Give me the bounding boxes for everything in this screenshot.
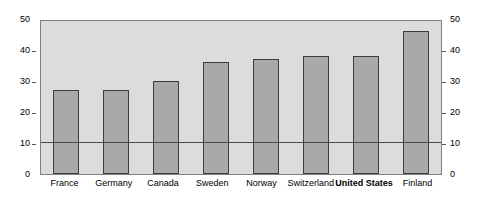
- plot-inner: [41, 21, 441, 174]
- axis-tick-label-left-10: 10: [20, 139, 30, 148]
- bar-finland[interactable]: [403, 31, 429, 174]
- axis-tick-label-left-50: 50: [20, 15, 30, 24]
- bar-slot-canada: [141, 21, 191, 174]
- category-label-germany: Germany: [89, 179, 138, 189]
- axis-tick-label-left-20: 20: [20, 108, 30, 117]
- bar-slot-germany: [91, 21, 141, 174]
- axis-tick-mark-right-20: [442, 113, 446, 114]
- axis-tick-label-right-10: 10: [450, 139, 460, 148]
- y-axis-left: 01020304050: [6, 20, 36, 175]
- axis-tick-mark-right-10: [442, 144, 446, 145]
- x-axis-category-labels: FranceGermanyCanadaSwedenNorwaySwitzerla…: [40, 179, 442, 199]
- bars-layer: [41, 21, 441, 174]
- axis-tick-label-right-40: 40: [450, 46, 460, 55]
- bar-united-states[interactable]: [353, 56, 379, 174]
- bar-canada[interactable]: [153, 81, 179, 174]
- category-label-switzerland: Switzerland: [286, 179, 335, 189]
- bar-switzerland[interactable]: [303, 56, 329, 174]
- reference-line-10: [41, 142, 441, 143]
- axis-tick-label-right-0: 0: [450, 170, 455, 179]
- bar-slot-france: [41, 21, 91, 174]
- bar-norway[interactable]: [253, 59, 279, 174]
- category-label-united-states: United States: [335, 179, 393, 189]
- axis-tick-mark-left-20: [32, 113, 36, 114]
- category-label-sweden: Sweden: [188, 179, 237, 189]
- axis-tick-mark-left-30: [32, 82, 36, 83]
- category-label-finland: Finland: [393, 179, 442, 189]
- plot-area: [40, 20, 442, 175]
- axis-tick-label-left-30: 30: [20, 77, 30, 86]
- axis-tick-mark-left-10: [32, 144, 36, 145]
- bar-slot-sweden: [191, 21, 241, 174]
- bar-slot-norway: [241, 21, 291, 174]
- axis-tick-mark-right-30: [442, 82, 446, 83]
- y-axis-right: 01020304050: [442, 20, 472, 175]
- category-label-norway: Norway: [237, 179, 286, 189]
- axis-tick-label-left-0: 0: [25, 170, 30, 179]
- bar-france[interactable]: [53, 90, 79, 174]
- axis-tick-mark-left-40: [32, 51, 36, 52]
- axis-tick-label-left-40: 40: [20, 46, 30, 55]
- axis-tick-mark-right-40: [442, 51, 446, 52]
- bar-slot-united-states: [341, 21, 391, 174]
- axis-tick-label-right-20: 20: [450, 108, 460, 117]
- bar-slot-finland: [391, 21, 441, 174]
- category-label-france: France: [40, 179, 89, 189]
- axis-tick-label-right-50: 50: [450, 15, 460, 24]
- bar-chart: 01020304050 01020304050 FranceGermanyCan…: [0, 0, 478, 222]
- bar-germany[interactable]: [103, 90, 129, 174]
- axis-tick-label-right-30: 30: [450, 77, 460, 86]
- bar-slot-switzerland: [291, 21, 341, 174]
- bar-sweden[interactable]: [203, 62, 229, 174]
- category-label-canada: Canada: [138, 179, 187, 189]
